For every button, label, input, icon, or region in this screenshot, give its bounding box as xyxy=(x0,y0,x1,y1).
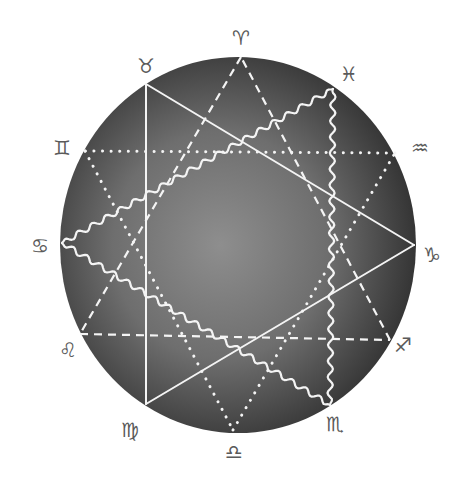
zodiac-disc xyxy=(60,57,416,433)
aries-glyph-icon: ♈︎ xyxy=(232,28,250,48)
taurus-glyph-icon: ♉︎ xyxy=(137,56,155,76)
gemini-glyph-icon: ♊︎ xyxy=(53,138,71,158)
zodiac-diagram xyxy=(0,0,465,488)
scorpio-glyph-icon: ♏︎ xyxy=(326,414,344,434)
leo-glyph-icon: ♌︎ xyxy=(59,340,77,360)
capricorn-glyph-icon: ♑︎ xyxy=(423,245,441,265)
pisces-glyph-icon: ♓︎ xyxy=(340,64,358,84)
libra-glyph-icon: ♎︎ xyxy=(225,442,243,462)
virgo-glyph-icon: ♍︎ xyxy=(121,420,139,440)
sagittarius-glyph-icon: ♐︎ xyxy=(394,335,412,355)
aquarius-glyph-icon: ♒︎ xyxy=(411,138,429,158)
cancer-glyph-icon: ♋︎ xyxy=(31,236,49,256)
